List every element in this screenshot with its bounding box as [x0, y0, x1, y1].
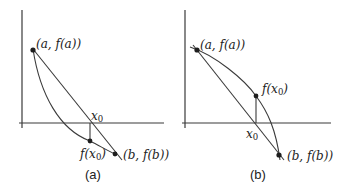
- label-point-b-a: (b, f(b)): [123, 148, 169, 162]
- label-point-a-b: (a, f(a)): [200, 38, 245, 52]
- fx0-dot-b: [254, 94, 259, 99]
- caption-a: (a): [85, 167, 101, 182]
- label-point-a-a: (a, f(a)): [36, 37, 81, 51]
- label-fx0-a: f(x0): [79, 147, 106, 162]
- point-b-dot-b: [276, 152, 281, 157]
- panel-a: (a, f(a)) x0 f(x0) (b, f(b)) (a): [19, 10, 169, 182]
- point-a-dot-b: [194, 47, 199, 52]
- label-x0-b: x0: [246, 127, 258, 142]
- secant-chord-a: [33, 49, 122, 160]
- function-curve-b: [190, 47, 280, 160]
- caption-b: (b): [250, 167, 266, 182]
- fx0-dot-a: [88, 139, 93, 144]
- point-a-dot-a: [30, 47, 35, 52]
- regula-falsi-diagram: (a, f(a)) x0 f(x0) (b, f(b)) (a) (a, f(a…: [0, 0, 345, 191]
- label-x0-a: x0: [91, 109, 103, 124]
- label-fx0-b: f(x0): [261, 82, 288, 97]
- label-point-b-b: (b, f(b)): [287, 149, 333, 163]
- panel-b: (a, f(a)) f(x0) x0 (b, f(b)) (b): [182, 10, 333, 182]
- point-b-dot-a: [113, 152, 118, 157]
- secant-chord-b: [193, 45, 284, 160]
